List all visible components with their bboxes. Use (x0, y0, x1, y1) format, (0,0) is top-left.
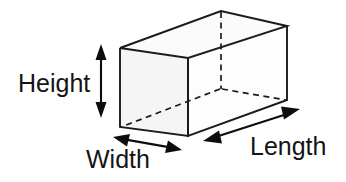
width-label: Width (86, 145, 150, 173)
box-solid (120, 11, 287, 136)
height-label: Height (18, 69, 90, 97)
height-arrow-head-up (96, 44, 107, 60)
width-arrow-head-right (165, 141, 182, 154)
length-label: Length (250, 132, 326, 160)
height-dimension: Height (18, 44, 107, 118)
diagram-canvas: Rectangular box dimensions diagram (0, 0, 346, 182)
box-dimensions-diagram: Rectangular box dimensions diagram (0, 0, 346, 182)
width-dimension: Width (86, 134, 182, 173)
length-arrow-head-right (281, 107, 300, 120)
length-arrow-head-left (203, 131, 222, 144)
height-arrow-head-down (96, 102, 107, 118)
